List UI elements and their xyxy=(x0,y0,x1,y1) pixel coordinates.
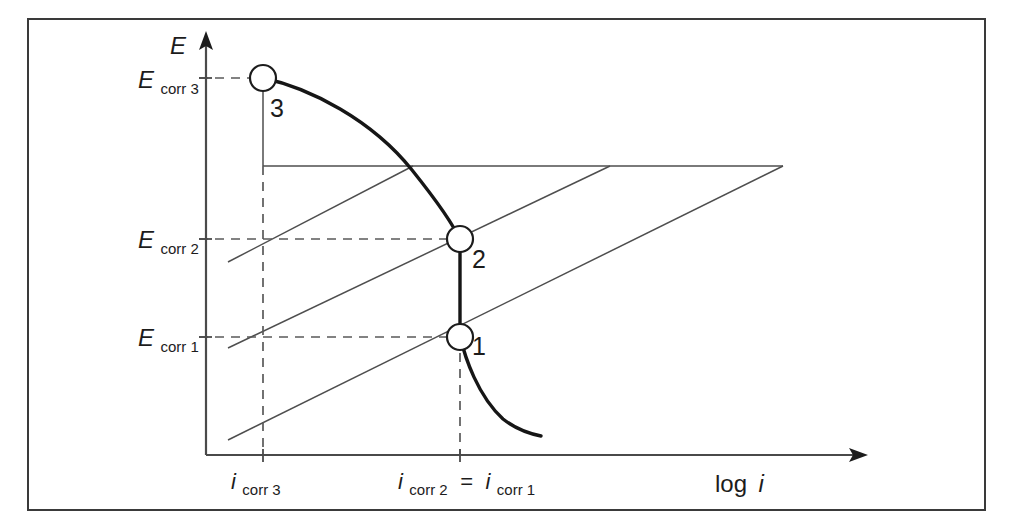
marker-point-1[interactable] xyxy=(447,324,473,350)
x-tick-icorr1-sub: corr 1 xyxy=(497,481,535,498)
y-tick-ecorr2-sub: corr 2 xyxy=(160,240,198,257)
y-tick-ecorr2-main: E xyxy=(138,226,155,253)
evans-diagram-figure: 3 2 1 E log i E corr 3 E corr 2 E corr 1… xyxy=(0,0,1009,532)
marker-point-3[interactable] xyxy=(250,65,276,91)
marker-label-2: 2 xyxy=(472,245,486,273)
marker-label-1: 1 xyxy=(472,332,486,360)
y-axis-label: E xyxy=(170,32,187,59)
x-axis-label-prefix: log xyxy=(715,470,747,497)
marker-point-2[interactable] xyxy=(447,226,473,252)
evans-diagram-canvas: 3 2 1 E log i E corr 3 E corr 2 E corr 1… xyxy=(0,0,1009,532)
x-tick-icorr2-sub: corr 2 xyxy=(409,481,447,498)
x-tick-equals-sign: = xyxy=(460,469,473,494)
y-tick-ecorr3-sub: corr 3 xyxy=(160,80,198,97)
x-axis-label-variable: i xyxy=(758,470,764,497)
x-tick-icorr3-sub: corr 3 xyxy=(242,481,280,498)
y-tick-ecorr1-main: E xyxy=(138,324,155,351)
y-tick-ecorr1-sub: corr 1 xyxy=(160,338,198,355)
y-tick-ecorr3-main: E xyxy=(138,66,155,93)
marker-label-3: 3 xyxy=(270,94,284,122)
